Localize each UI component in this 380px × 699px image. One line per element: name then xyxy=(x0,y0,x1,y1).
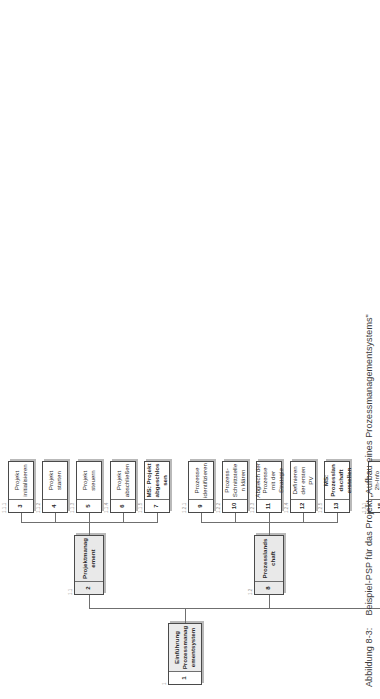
node-id: 8 xyxy=(255,581,283,594)
node-label: Prozesse identifizieren xyxy=(189,462,213,499)
figure-number: Abbildung 8-3: xyxy=(364,628,374,687)
node-id: 12 xyxy=(291,499,315,512)
wbs-code: 1.2.1 xyxy=(182,503,187,513)
task-node-1.1.2[interactable]: 4Projekt starten xyxy=(42,461,68,513)
connector-line xyxy=(89,595,90,609)
connector-line xyxy=(21,513,22,523)
connector-line xyxy=(89,523,90,535)
task-node-1.2.1[interactable]: 9Prozesse identifizieren xyxy=(188,461,214,513)
node-id: 1 xyxy=(169,671,201,684)
wbs-code: 1.2.5 xyxy=(318,503,323,513)
connector-line xyxy=(269,595,270,609)
node-label: Projekt steuern xyxy=(77,462,101,499)
node-label: Definieren der ersten PV xyxy=(291,462,315,499)
node-id: 6 xyxy=(111,499,135,512)
wbs-code: 1.1.1 xyxy=(2,503,7,513)
wbs-code: 1 xyxy=(162,682,167,685)
figure-caption: Abbildung 8-3:Beispiel-PSP für das Proje… xyxy=(364,314,374,687)
node-id: 13 xyxy=(325,499,349,512)
node-id: 3 xyxy=(9,499,33,512)
psp-canvas: 1Einführung Prozessmanagementsystem12Pro… xyxy=(0,0,380,699)
connector-line xyxy=(89,608,380,609)
node-label: Projekt abschließen xyxy=(111,462,135,499)
node-id: 9 xyxy=(189,499,213,512)
wbs-code: 1.2.4 xyxy=(284,503,289,513)
node-label: MS: Projekt abgeschlossen xyxy=(145,462,169,499)
node-id: 11 xyxy=(257,499,281,512)
connector-line xyxy=(185,609,186,623)
wbs-code: 1.1.4 xyxy=(104,503,109,513)
node-label: Projekt initialisieren xyxy=(9,462,33,499)
node-id: 5 xyxy=(77,499,101,512)
connector-line xyxy=(201,513,202,523)
node-label: Abgleich der Prozesse mit der Strategie xyxy=(257,462,281,499)
task-node-1.2.2[interactable]: 10Prozess-Schnittstellen klären xyxy=(222,461,248,513)
node-label: Prozess-Schnittstellen klären xyxy=(223,462,247,499)
connector-line xyxy=(235,513,236,523)
wbs-code: 1.1.2 xyxy=(36,503,41,513)
node-label: Einführung Prozessmanagementsystem xyxy=(169,624,201,671)
wbs-code: 1.1.3 xyxy=(70,503,75,513)
node-label: Projektmanagement xyxy=(75,536,103,581)
wbs-code: 1.2 xyxy=(248,589,253,595)
psp-diagram-rotated-wrapper: 1Einführung Prozessmanagementsystem12Pro… xyxy=(0,0,380,699)
wbs-code: 1.1.5 xyxy=(138,503,143,513)
root-node[interactable]: 1Einführung Prozessmanagementsystem xyxy=(168,623,202,685)
task-node-1.1.5[interactable]: 7MS: Projekt abgeschlossen xyxy=(144,461,170,513)
connector-line xyxy=(269,513,270,523)
task-node-1.1.4[interactable]: 6Projekt abschließen xyxy=(110,461,136,513)
node-label: Projekt starten xyxy=(43,462,67,499)
node-label: MS: Prozesslandschaft erstellen xyxy=(325,462,349,499)
branch-node-1.2[interactable]: 8Prozesslandschaft xyxy=(254,535,284,595)
node-id: 4 xyxy=(43,499,67,512)
connector-line xyxy=(55,513,56,523)
node-id: 10 xyxy=(223,499,247,512)
wbs-code: 1.2.3 xyxy=(250,503,255,513)
task-node-1.2.5[interactable]: 13MS: Prozesslandschaft erstellen xyxy=(324,461,350,513)
branch-node-1.1[interactable]: 2Projektmanagement xyxy=(74,535,104,595)
task-node-1.2.3[interactable]: 11Abgleich der Prozesse mit der Strategi… xyxy=(256,461,282,513)
wbs-code: 1.1 xyxy=(68,589,73,595)
connector-line xyxy=(337,513,338,523)
connector-line xyxy=(89,513,90,523)
task-node-1.1.1[interactable]: 3Projekt initialisieren xyxy=(8,461,34,513)
connector-line xyxy=(123,513,124,523)
connector-line xyxy=(269,523,270,535)
connector-line xyxy=(157,513,158,523)
figure-caption-text: Beispiel-PSP für das Projekt „Aufbau ein… xyxy=(364,314,374,615)
connector-line xyxy=(303,513,304,523)
node-label: Prozesslandschaft xyxy=(255,536,283,581)
node-id: 7 xyxy=(145,499,169,512)
task-node-1.1.3[interactable]: 5Projekt steuern xyxy=(76,461,102,513)
node-id: 2 xyxy=(75,581,103,594)
wbs-code: 1.2.2 xyxy=(216,503,221,513)
task-node-1.2.4[interactable]: 12Definieren der ersten PV xyxy=(290,461,316,513)
